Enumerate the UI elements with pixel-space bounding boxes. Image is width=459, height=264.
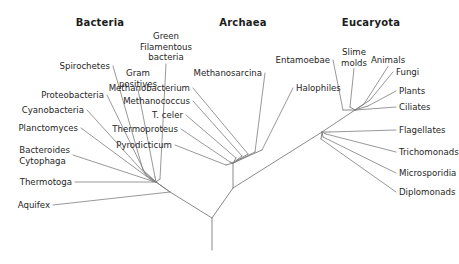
taxon-label-animals-line-1: Animals — [371, 55, 405, 66]
taxon-label-methanosarcina-line-1: Methanosarcina — [194, 68, 262, 79]
taxon-label-plants-line-1: Plants — [399, 86, 425, 97]
branch-eucaryota-crown-stem — [322, 110, 355, 132]
taxon-label-trichomonads-line-1: Trichomonads — [399, 147, 459, 158]
taxon-label-methanobacterium-line-1: Methanobacterium — [109, 83, 190, 94]
taxon-label-proteobacteria: Proteobacteria — [41, 90, 104, 101]
taxon-label-ciliates: Ciliates — [399, 102, 431, 113]
taxon-label-bacteroides-line-1: Bacteroides — [19, 145, 70, 156]
taxon-label-pyrodicticum: Pyrodicticum — [116, 140, 172, 151]
taxon-label-fungi-line-1: Fungi — [396, 67, 419, 78]
domain-title-eucaryota: Eucaryota — [342, 17, 400, 28]
taxon-label-slime-molds-line-1: Slime — [341, 47, 367, 58]
taxon-label-aquifex: Aquifex — [18, 200, 50, 211]
taxon-label-fungi: Fungi — [396, 67, 419, 78]
leader-animals — [364, 67, 388, 105]
leader-methanosarcina — [255, 73, 265, 152]
taxon-label-green-filamentous-bacteria: GreenFilamentousbacteria — [140, 31, 192, 63]
taxon-label-t-celer: T. celer — [152, 110, 183, 121]
taxon-label-halophiles: Halophiles — [296, 83, 341, 94]
taxon-label-trichomonads: Trichomonads — [399, 147, 459, 158]
leader-planctomyces — [81, 128, 150, 179]
taxon-label-entamoebae-line-1: Entamoebae — [276, 55, 330, 66]
taxon-label-pyrodicticum-line-1: Pyrodicticum — [116, 140, 172, 151]
taxon-label-gram-positives-line-1: Gram — [119, 68, 157, 79]
taxon-label-bacteroides-line-2: Cytophaga — [19, 155, 70, 166]
taxon-label-flagellates-line-1: Flagellates — [399, 125, 446, 136]
taxon-label-aquifex-line-1: Aquifex — [18, 200, 50, 211]
taxon-label-thermotoga: Thermotoga — [20, 177, 72, 188]
taxon-label-ciliates-line-1: Ciliates — [399, 102, 431, 113]
label-leader-lines — [53, 60, 396, 205]
leader-diplomonads — [321, 139, 396, 192]
taxon-label-planctomyces-line-1: Planctomyces — [18, 123, 78, 134]
branch-root-to-archaea-eucaryota — [212, 188, 233, 218]
taxon-label-t-celer-line-1: T. celer — [152, 110, 183, 121]
taxon-label-thermoproteus: Thermoproteus — [112, 124, 178, 135]
domain-title-bacteria: Bacteria — [76, 17, 125, 28]
taxon-label-microsporidia: Microsporidia — [399, 168, 456, 179]
taxon-label-methanococcus-line-1: Methanococcus — [123, 96, 190, 107]
taxon-label-thermoproteus-line-1: Thermoproteus — [112, 124, 178, 135]
taxon-label-microsporidia-line-1: Microsporidia — [399, 168, 456, 179]
taxon-label-cyanobacteria-line-1: Cyanobacteria — [22, 105, 84, 116]
taxon-label-entamoebae: Entamoebae — [276, 55, 330, 66]
domain-title-archaea: Archaea — [219, 17, 266, 28]
taxon-label-green-filamentous-bacteria-line-1: Green — [140, 31, 192, 42]
taxon-label-green-filamentous-bacteria-line-2: Filamentous — [140, 42, 192, 53]
taxon-label-green-filamentous-bacteria-line-3: bacteria — [140, 52, 192, 63]
phylogenetic-tree-figure: Bacteria Archaea Eucaryota SpirochetesPr… — [0, 0, 459, 264]
branch-pyrodicticum — [226, 163, 233, 165]
taxon-label-halophiles-line-1: Halophiles — [296, 83, 341, 94]
leader-halophiles — [262, 88, 293, 150]
branch-thermoproteus — [230, 162, 233, 163]
taxon-label-plants: Plants — [399, 86, 425, 97]
taxon-label-diplomonads-line-1: Diplomonads — [399, 187, 455, 198]
taxon-label-spirochetes-line-1: Spirochetes — [60, 61, 111, 72]
taxon-label-slime-molds: Slimemolds — [341, 47, 367, 68]
branch-halophiles — [233, 150, 262, 163]
taxon-label-planctomyces: Planctomyces — [18, 123, 78, 134]
leader-slime-molds — [350, 69, 354, 108]
taxon-label-proteobacteria-line-1: Proteobacteria — [41, 90, 104, 101]
taxon-label-cyanobacteria: Cyanobacteria — [22, 105, 84, 116]
leader-aquifex — [53, 192, 170, 205]
taxon-label-bacteroides: BacteroidesCytophaga — [19, 145, 70, 166]
branch-to-eucaryota — [233, 132, 322, 188]
leader-pyrodicticum — [175, 145, 226, 165]
branch-fungi — [355, 100, 370, 110]
tree-branches — [143, 100, 370, 250]
leader-methanococcus — [193, 101, 242, 156]
taxon-label-flagellates: Flagellates — [399, 125, 446, 136]
leader-green-filamentous-bacteria — [160, 64, 166, 179]
leader-trichomonads — [326, 134, 396, 152]
branch-aquifex — [156, 182, 170, 192]
taxon-label-diplomonads: Diplomonads — [399, 187, 455, 198]
branch-root-to-bacteria — [170, 192, 212, 218]
taxon-label-methanococcus: Methanococcus — [123, 96, 190, 107]
taxon-label-animals: Animals — [371, 55, 405, 66]
leader-flagellates — [330, 130, 396, 132]
branch-green-filamentous-bacteria — [156, 179, 160, 182]
taxon-label-spirochetes: Spirochetes — [60, 61, 111, 72]
leader-plants — [368, 91, 396, 106]
taxon-label-methanobacterium: Methanobacterium — [109, 83, 190, 94]
taxon-label-methanosarcina: Methanosarcina — [194, 68, 262, 79]
taxon-label-slime-molds-line-2: molds — [341, 57, 367, 68]
taxon-label-thermotoga-line-1: Thermotoga — [20, 177, 72, 188]
leader-methanobacterium — [193, 88, 248, 154]
